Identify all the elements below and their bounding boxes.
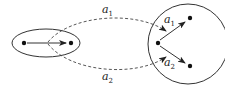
source-node-left xyxy=(22,41,26,45)
target-node-upper xyxy=(188,16,192,20)
target-node-lower xyxy=(188,64,192,68)
source-set xyxy=(12,29,80,57)
diagram-canvas: a1 a2 a1 a2 xyxy=(0,0,225,89)
label-bottom-curve: a2 xyxy=(102,70,113,85)
target-set xyxy=(148,4,225,84)
label-inner-lower: a2 xyxy=(164,56,175,71)
label-inner-upper: a1 xyxy=(164,13,175,28)
source-node-right xyxy=(69,41,73,45)
label-top-curve: a1 xyxy=(102,3,113,18)
target-node-center xyxy=(156,41,160,45)
